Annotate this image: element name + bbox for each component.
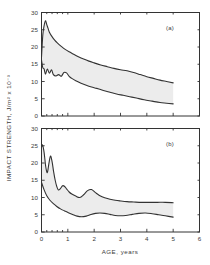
y-tick-label: 15 (31, 60, 38, 67)
y-tick-label: 30 (31, 9, 38, 16)
x-axis-title: AGE, years (102, 248, 139, 255)
x-tick-label: 2 (92, 235, 96, 242)
y-tick-label: 25 (31, 26, 38, 33)
y-tick-label: 5 (35, 211, 39, 218)
figure-background (0, 0, 210, 265)
x-tick-label: 0 (40, 235, 44, 242)
y-tick-label: 10 (31, 78, 38, 85)
y-tick-label: 0 (35, 228, 39, 235)
y-tick-label: 20 (31, 159, 38, 166)
y-tick-label: 30 (31, 125, 38, 132)
figure-container: IMPACT STRENGTH, J/m² x 10⁻³ 05101520253… (0, 0, 210, 265)
y-tick-label: 0 (35, 112, 39, 119)
x-tick-label: 4 (145, 235, 149, 242)
x-tick-label: 1 (66, 235, 70, 242)
y-axis-title: IMPACT STRENGTH, J/m² x 10⁻³ (5, 75, 12, 182)
x-tick-label: 5 (171, 235, 175, 242)
x-tick-label: 6 (198, 235, 202, 242)
y-axis-title-group: IMPACT STRENGTH, J/m² x 10⁻³ (5, 75, 12, 182)
impact-strength-vs-age-figure: IMPACT STRENGTH, J/m² x 10⁻³ 05101520253… (0, 0, 210, 265)
panel-b-label: (b) (166, 141, 174, 147)
x-tick-label: 3 (119, 235, 123, 242)
y-tick-label: 25 (31, 142, 38, 149)
y-tick-label: 5 (35, 95, 39, 102)
y-tick-label: 20 (31, 43, 38, 50)
panel-a-label: (a) (166, 25, 174, 31)
y-tick-label: 15 (31, 176, 38, 183)
y-tick-label: 10 (31, 194, 38, 201)
